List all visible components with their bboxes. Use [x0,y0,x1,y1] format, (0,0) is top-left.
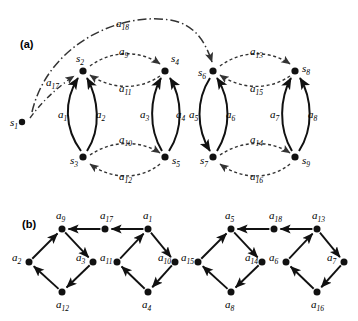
edge-b-a3-to-b-a12 [67,265,90,287]
arc-label-a10: a10 [119,133,132,148]
arc-label-a18: a18 [116,17,129,32]
node-b-a6 [283,259,290,266]
edge-b-a11-to-b-a1 [120,234,143,259]
node-b-a2 [26,259,33,266]
node-label-b-a1: a1 [143,209,152,224]
node-b-a10 [172,259,179,266]
node-b-a18 [271,226,278,233]
panel-b-label: (b) [22,218,36,230]
edge-b-a16-to-b-a6 [291,266,314,288]
state-node-s6 [209,67,216,74]
edge-a11 [90,75,160,86]
state-label-s7: s7 [200,154,208,169]
arc-label-a13: a13 [250,45,263,60]
arc-label-a16: a16 [250,170,263,185]
arc-label-a11: a11 [119,82,131,97]
arc-label-a3: a3 [140,108,150,123]
edge-a7 [282,78,292,151]
state-node-s9 [291,153,298,160]
node-b-a16 [314,289,321,296]
node-b-a4 [145,289,152,296]
node-label-b-a14: a14 [245,251,258,266]
edge-a12 [90,164,160,176]
state-node-s2 [79,67,86,74]
state-node-s8 [291,67,298,74]
node-label-b-a6: a6 [269,251,279,266]
state-node-s3 [79,153,86,160]
node-label-b-a10: a10 [158,251,171,266]
figure-svg: s1s2s3s4s5s6s7s8s9a1a2a3a4a5a6a7a8a9a10a… [0,0,358,321]
node-label-b-a16: a16 [311,298,324,313]
node-b-a13 [314,226,321,233]
edge-b-a14-to-b-a8 [236,265,259,287]
edge-b-a15-to-b-a5 [201,234,226,259]
state-label-s3: s3 [70,154,78,169]
edge-b-a7-to-b-a16 [321,265,341,287]
node-label-b-a13: a13 [312,209,325,224]
figure-root: s1s2s3s4s5s6s7s8s9a1a2a3a4a5a6a7a8a9a10a… [0,0,358,321]
state-label-s6: s6 [198,66,206,81]
node-b-a1 [145,226,152,233]
node-b-a8 [228,289,235,296]
arc-label-a7: a7 [270,108,280,123]
arc-label-a4: a4 [176,108,186,123]
panel-a-label: (a) [20,38,34,50]
edge-b-a10-to-b-a4 [152,265,172,287]
panel-a [19,19,310,176]
node-b-a17 [102,226,109,233]
node-b-a15 [195,259,202,266]
state-node-s4 [161,67,168,74]
state-label-s1: s1 [10,116,18,131]
state-label-s5: s5 [172,154,180,169]
state-node-s7 [209,153,216,160]
node-label-b-a11: a11 [100,251,112,266]
edge-b-a2-to-b-a9 [32,234,57,259]
edge-a1 [68,78,81,151]
arc-label-a14: a14 [250,133,263,148]
node-b-a3 [90,259,97,266]
edge-b-a12-to-b-a2 [34,266,59,289]
node-b-a5 [228,226,235,233]
edge-b-a8-to-b-a15 [203,266,228,289]
node-label-b-a8: a8 [225,298,235,313]
arc-label-a5: a5 [189,108,199,123]
arc-label-a9: a9 [119,45,129,60]
node-label-b-a2: a2 [12,251,22,266]
node-label-b-a18: a18 [269,209,282,224]
node-label-b-a15: a15 [181,251,194,266]
edge-a5 [200,78,211,151]
edge-b-a6-to-b-a13 [289,234,312,259]
node-label-b-a7: a7 [327,251,337,266]
node-b-a9 [59,226,66,233]
arc-label-a17: a17 [46,76,59,91]
state-node-s5 [161,153,168,160]
node-label-b-a12: a12 [56,298,69,313]
state-label-s4: s4 [171,52,179,67]
arc-label-a15: a15 [250,82,263,97]
node-label-b-a17: a17 [100,209,113,224]
node-b-a11 [114,259,121,266]
state-node-s1 [19,119,25,125]
node-b-a12 [59,289,66,296]
edge-b-a4-to-b-a11 [122,266,145,288]
edge-a3 [152,78,162,151]
edge-a18 [32,19,212,112]
node-label-b-a9: a9 [56,209,66,224]
state-label-s8: s8 [302,62,310,77]
node-label-b-a5: a5 [225,209,235,224]
state-label-s9: s9 [302,154,310,169]
arc-label-a12: a12 [119,170,132,185]
state-label-s2: s2 [76,52,84,67]
node-label-b-a4: a4 [142,298,152,313]
node-b-a14 [259,259,266,266]
node-b-a7 [341,259,348,266]
arc-label-a1: a1 [58,108,67,123]
